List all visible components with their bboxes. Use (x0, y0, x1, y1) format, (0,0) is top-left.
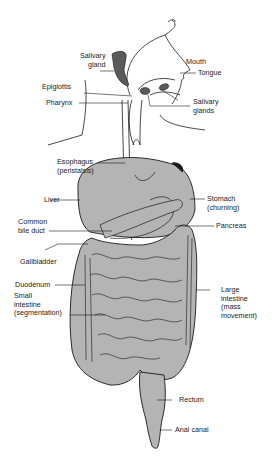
label-anal-canal: Anal canal (175, 426, 209, 435)
label-tongue: Tongue (198, 69, 222, 78)
head-outline (127, 20, 190, 104)
label-esophagus: Esophagus (peristalsis) (57, 158, 94, 175)
label-mouth: Mouth (186, 58, 206, 67)
salivary-gland-lower-1 (140, 88, 150, 95)
salivary-gland-lower-2 (158, 82, 169, 91)
large-intestine-shape (70, 225, 197, 385)
label-stomach: Stomach (churning) (207, 195, 239, 212)
label-common-bile-duct: Common bile duct (18, 218, 47, 235)
label-rectum: Rectum (179, 396, 204, 405)
label-salivary-glands: Salivary glands (193, 98, 219, 115)
label-duodenum: Duodenum (15, 281, 50, 290)
label-small-intestine: Small intestine (segmentation) (14, 292, 62, 318)
label-salivary-gland: Salivary gland (80, 52, 106, 69)
label-pancreas: Pancreas (216, 222, 246, 231)
label-epiglottis: Epiglottis (42, 83, 71, 92)
rectum-shape (139, 372, 165, 448)
label-liver: Liver (44, 196, 60, 205)
salivary-gland-shape (112, 51, 129, 86)
label-gallbladder: Gallbladder (20, 258, 57, 267)
digestive-system-diagram: Salivary gland Mouth Tongue Epiglottis P… (0, 0, 273, 457)
label-large-intestine: Large intestine (mass movement) (221, 286, 257, 320)
label-pharynx: Pharynx (46, 99, 72, 108)
